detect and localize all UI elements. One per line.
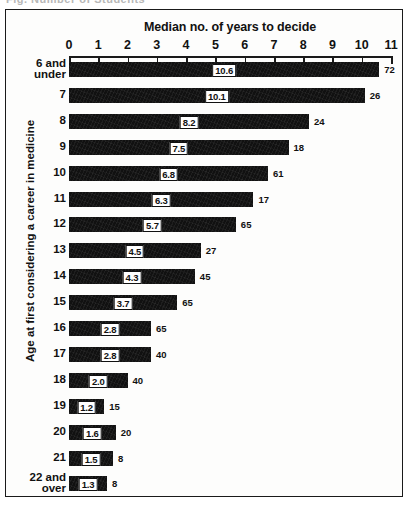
bar-count-label: 26 <box>370 91 381 101</box>
bar-value-label: 6.8 <box>159 168 178 181</box>
category-label-line1: 14 <box>10 270 66 282</box>
bar-count-label: 45 <box>200 272 211 282</box>
bar-row: 162.865 <box>6 317 410 341</box>
bar-row: 125.765 <box>6 213 410 237</box>
bar-row: 191.215 <box>6 395 410 419</box>
bar-value-label: 2.8 <box>101 323 120 336</box>
bar-value-label: 1.5 <box>82 453 101 466</box>
bar-row: 116.317 <box>6 188 410 212</box>
bar-count-label: 24 <box>314 117 325 127</box>
bar-count-label: 72 <box>384 65 395 75</box>
bar-row: 710.126 <box>6 84 410 108</box>
category-label: 17 <box>10 348 66 360</box>
bar-count-label: 15 <box>109 402 120 412</box>
category-label-line1: 18 <box>10 374 66 386</box>
bar-count-label: 18 <box>294 143 305 153</box>
category-label-line1: 15 <box>10 296 66 308</box>
bar-count-label: 8 <box>112 479 117 489</box>
bar-rows-container: 6 andunder10.672710.12688.22497.518106.8… <box>6 10 410 507</box>
bar-row: 182.040 <box>6 369 410 393</box>
category-label: 19 <box>10 400 66 412</box>
bar-value-label: 2.0 <box>89 375 108 388</box>
bar-value-label: 1.6 <box>83 427 102 440</box>
category-label: 21 <box>10 452 66 464</box>
category-label: 13 <box>10 244 66 256</box>
bar-value-label: 3.7 <box>114 297 133 310</box>
category-label: 22 andover <box>10 472 66 494</box>
category-label: 15 <box>10 296 66 308</box>
bar-value-label: 6.3 <box>152 194 171 207</box>
bar-count-label: 61 <box>273 169 284 179</box>
category-label: 16 <box>10 322 66 334</box>
cropped-caption-text: Fig. Number of Students <box>6 0 145 5</box>
category-label-line1: 7 <box>10 89 66 101</box>
bar-count-label: 8 <box>118 454 123 464</box>
category-label-line1: 20 <box>10 426 66 438</box>
category-label: 12 <box>10 218 66 230</box>
bar-row: 97.518 <box>6 136 410 160</box>
bar-row: 144.345 <box>6 265 410 289</box>
bar-row: 172.840 <box>6 343 410 367</box>
bar-row: 201.620 <box>6 421 410 445</box>
category-label: 7 <box>10 89 66 101</box>
bar-row: 153.765 <box>6 291 410 315</box>
chart-frame: Median no. of years to decide 0123456789… <box>5 9 403 497</box>
category-label: 6 andunder <box>10 58 66 80</box>
bar-value-label: 10.6 <box>212 64 236 77</box>
bar-row: 106.861 <box>6 162 410 186</box>
category-label: 18 <box>10 374 66 386</box>
category-label-line1: 21 <box>10 452 66 464</box>
bar-value-label: 4.3 <box>123 271 142 284</box>
bar-row: 88.224 <box>6 110 410 134</box>
category-label-line1: 11 <box>10 193 66 205</box>
category-label-line1: 9 <box>10 141 66 153</box>
category-label-line2: under <box>10 69 66 80</box>
bar-count-label: 65 <box>241 220 252 230</box>
category-label-line1: 17 <box>10 348 66 360</box>
category-label: 8 <box>10 115 66 127</box>
bar-value-label: 2.8 <box>101 349 120 362</box>
bar-count-label: 17 <box>258 195 269 205</box>
bar-value-label: 4.5 <box>126 245 145 258</box>
category-label-line1: 8 <box>10 115 66 127</box>
bar-value-label: 1.3 <box>79 478 98 491</box>
bar-count-label: 65 <box>182 298 193 308</box>
bar-count-label: 27 <box>206 246 217 256</box>
category-label-line1: 19 <box>10 400 66 412</box>
bar-row: 211.58 <box>6 447 410 471</box>
cropped-caption-above-frame: Fig. Number of Students <box>0 0 410 9</box>
bar-value-label: 10.1 <box>205 90 229 103</box>
category-label-line1: 12 <box>10 218 66 230</box>
category-label: 10 <box>10 167 66 179</box>
bar-value-label: 8.2 <box>180 116 199 129</box>
category-label: 20 <box>10 426 66 438</box>
category-label: 14 <box>10 270 66 282</box>
category-label-line1: 13 <box>10 244 66 256</box>
category-label: 11 <box>10 193 66 205</box>
category-label: 9 <box>10 141 66 153</box>
bar-value-label: 7.5 <box>169 142 188 155</box>
bar-count-label: 40 <box>133 376 144 386</box>
bar-value-label: 5.7 <box>143 219 162 232</box>
category-label-line2: over <box>10 483 66 494</box>
bar-count-label: 40 <box>156 350 167 360</box>
bar-count-label: 65 <box>156 324 167 334</box>
category-label-line1: 10 <box>10 167 66 179</box>
bar-row: 6 andunder10.672 <box>6 58 410 82</box>
category-label-line1: 16 <box>10 322 66 334</box>
bar-value-label: 1.2 <box>77 401 96 414</box>
bar-count-label: 20 <box>121 428 132 438</box>
bar-row: 22 andover1.38 <box>6 472 410 496</box>
bar-row: 134.527 <box>6 239 410 263</box>
